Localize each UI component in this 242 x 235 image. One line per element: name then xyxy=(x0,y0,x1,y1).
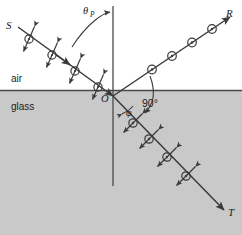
label-origin-O: O xyxy=(101,93,109,104)
label-right-angle: 90° xyxy=(142,97,158,109)
air-region xyxy=(0,0,242,90)
label-medium-air: air xyxy=(11,73,23,84)
label-brewster-subscript: P xyxy=(89,10,95,19)
glass-region xyxy=(0,90,242,235)
diagram-canvas: S R T O air glass θ P 90° φ xyxy=(0,0,242,235)
label-source-S: S xyxy=(6,19,12,31)
brewster-angle-diagram: S R T O air glass θ P 90° φ xyxy=(0,0,242,235)
label-medium-glass: glass xyxy=(11,101,34,112)
label-brewster-theta: θ xyxy=(83,5,88,16)
label-reflected-R: R xyxy=(225,7,233,19)
label-transmitted-T: T xyxy=(228,206,235,218)
label-refraction-angle: φ xyxy=(126,107,132,118)
